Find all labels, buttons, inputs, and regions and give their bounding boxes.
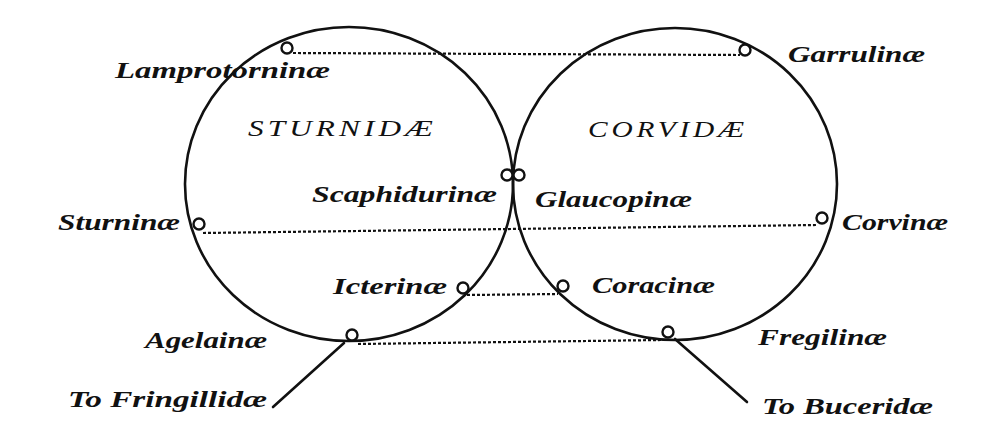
label-icterinae: Icterinæ [332, 273, 447, 299]
label-lamprotorninae: Lamprotorninæ [114, 57, 330, 83]
affinity-line-sturninae-corvinae [203, 225, 817, 233]
node-agelainae [347, 330, 358, 341]
node-lamprotorninae [282, 43, 293, 54]
family-label-corvidae: CORVIDÆ [588, 117, 748, 142]
link-line-to-buceridae [675, 339, 747, 402]
node-corvinae [817, 213, 828, 224]
affinity-line-lamprotorninae-garrulinae [293, 53, 740, 55]
node-garrulinae [740, 45, 751, 56]
label-coracinae: Coracinæ [592, 272, 715, 298]
node-coracinae [558, 281, 569, 292]
affinity-line-agelainae-fregilinae [358, 340, 662, 344]
label-scaphidurinae: Scaphidurinæ [312, 181, 497, 207]
family-label-sturnidae: STURNIDÆ [248, 116, 437, 141]
label-glaucopinae: Glaucopinæ [535, 186, 692, 212]
link-line-to-fringillidae [273, 343, 344, 407]
label-fregilinae: Fregilinæ [757, 324, 887, 350]
node-scaphidurinae [502, 170, 513, 181]
node-sturninae [194, 219, 205, 230]
node-fregilinae [663, 327, 674, 338]
affinity-line-icterinae-coracinae [467, 294, 558, 295]
label-garrulinae: Garrulinæ [788, 41, 925, 67]
label-to-fringillidae: To Fringillidæ [68, 386, 267, 412]
label-agelainae: Agelainæ [142, 327, 267, 353]
node-glaucopinae [514, 170, 525, 181]
node-icterinae [458, 283, 469, 294]
label-to-buceridae: To Buceridæ [762, 393, 933, 419]
label-sturninae: Sturninæ [58, 209, 180, 235]
label-corvinae: Corvinæ [842, 209, 948, 235]
affinity-diagram: STURNIDÆ CORVIDÆ Lamprotorninæ Garrulinæ… [0, 0, 991, 448]
